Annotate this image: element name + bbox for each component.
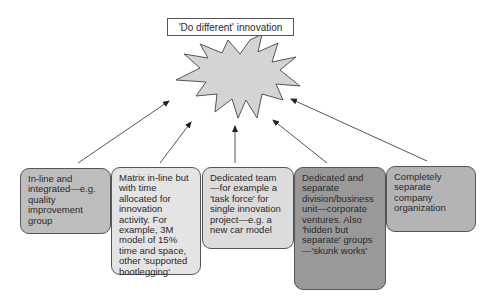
box-dedicated-team: Dedicated team—for example a 'task force… (202, 167, 294, 249)
box-text: Completely separate company organization (394, 171, 446, 213)
arrow-2 (160, 122, 191, 163)
box-matrix-inline: Matrix in-line but with time allocated f… (111, 167, 201, 275)
diagram-canvas (0, 0, 495, 304)
box-text: Matrix in-line but with time allocated f… (119, 172, 189, 277)
box-text: Dedicated team—for example a 'task force… (210, 172, 281, 235)
box-separate-company: Completely separate company organization (386, 166, 476, 232)
explosion-star-icon (176, 34, 300, 118)
box-inline-integrated: In-line and integrated—e.g. quality impr… (20, 168, 111, 234)
box-text: In-line and integrated—e.g. quality impr… (28, 173, 96, 226)
box-separate-division: Dedicated and separate division/business… (294, 167, 386, 290)
arrow-4 (273, 120, 327, 163)
title-label: 'Do different' innovation (179, 22, 283, 33)
arrow-1 (78, 101, 169, 163)
title-box: 'Do different' innovation (167, 18, 294, 36)
arrow-5 (291, 99, 427, 161)
box-text: Dedicated and separate division/business… (302, 172, 374, 256)
